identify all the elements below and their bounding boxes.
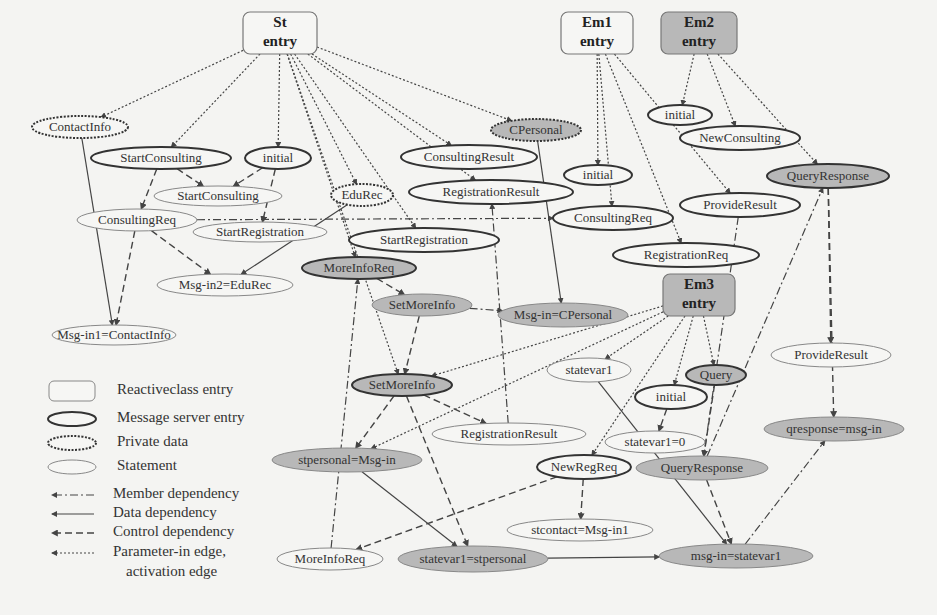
edge-control-startconsulting_ms-to-startconsulting_stmt [177, 169, 203, 187]
edge-param-st-to-contactinfo [101, 50, 243, 117]
entry-node-em2: Em2entry [661, 12, 737, 54]
node-label: RegistrationResult [461, 426, 558, 441]
node-startconsulting_stmt: StartConsulting [154, 186, 282, 206]
node-em1_initial: initial [564, 165, 632, 185]
node-statevar1_stpersonal: statevar1=stpersonal [398, 546, 548, 572]
legend-item-private: Private data [48, 433, 189, 450]
legend-label: Private data [117, 433, 189, 449]
edge-param-st-to-consultingresult [312, 54, 451, 145]
node-contactinfo: ContactInfo [32, 116, 128, 138]
edge-param-em1-to-em1_initial [597, 54, 598, 165]
node-label: ConsultingReq [574, 210, 653, 225]
node-label: CPersonal [509, 122, 563, 137]
legend-item-message-server: Message server entry [48, 409, 245, 426]
entry-subtitle: entry [682, 33, 717, 49]
node-newconsulting: NewConsulting [680, 126, 800, 150]
node-label: Query [700, 367, 733, 382]
edge-member-moreinforeq_stmt-to-moreinforeq_ms [331, 279, 358, 548]
legend-swatch-ellipse [48, 460, 96, 474]
node-label: ContactInfo [49, 119, 111, 134]
node-label: StartRegistration [380, 232, 469, 247]
node-label: ProvideResult [703, 197, 777, 212]
node-registrationresult_stmt: RegistrationResult [432, 423, 586, 445]
legend-swatch-ellipse [48, 436, 96, 450]
legend-swatch-ellipse [48, 412, 96, 426]
entry-title: Em1 [582, 14, 612, 30]
node-startconsulting_ms: StartConsulting [91, 147, 231, 169]
legend-label: Data dependency [113, 504, 217, 520]
node-label: QueryResponse [787, 168, 870, 183]
node-cpersonal: CPersonal [491, 119, 581, 141]
edge-param-em2-to-em2_initial [682, 54, 694, 105]
node-label: QueryResponse [661, 460, 744, 475]
node-label: initial [665, 107, 696, 122]
node-em2_initial: initial [648, 105, 712, 125]
edge-control-em3_initial-to-statevar1_0 [659, 409, 667, 431]
edge-param-st-to-startconsulting_ms [171, 54, 260, 147]
node-label: Msg-in2=EduRec [179, 277, 272, 292]
legend-item-reactiveclass: Reactiveclass entry [49, 381, 234, 401]
edge-param-st-to-cpersonal [317, 47, 512, 121]
entry-subtitle: entry [580, 33, 615, 49]
node-label: initial [656, 389, 687, 404]
node-label: ConsultingResult [424, 149, 515, 164]
edge-param-em3-to-query [703, 316, 713, 365]
edge-member-setmoreinfo_stmt-to-msgin_cpersonal [470, 308, 503, 310]
node-label: statevar1=0 [625, 434, 686, 449]
node-label: EduRec [341, 187, 382, 202]
node-statevar1: statevar1 [547, 358, 631, 382]
node-consultingreq_em1: ConsultingReq [553, 206, 673, 230]
legend-label: Message server entry [117, 409, 245, 425]
entry-node-em1: Em1entry [561, 12, 633, 54]
legend-item-param: Parameter-in edge,activation edge [52, 543, 226, 579]
node-msgin_cpersonal: Msg-in=CPersonal [498, 303, 628, 327]
node-setmoreinfo_stmt: SetMoreInfo [372, 294, 472, 316]
entry-subtitle: entry [682, 295, 717, 311]
edge-data-statevar1_stpersonal-to-msgin_statevar1 [548, 557, 659, 558]
entry-subtitle: entry [263, 33, 298, 49]
edge-control-setmoreinfo_ms-to-statevar1_stpersonal [406, 396, 467, 546]
node-queryresponse_ms: QueryResponse [767, 164, 889, 188]
node-label: RegistrationResult [443, 184, 540, 199]
legend-swatch-box [49, 381, 95, 401]
legend-label: Statement [117, 457, 178, 473]
node-label: initial [583, 167, 614, 182]
node-label: ProvideResult [794, 347, 868, 362]
entry-title: Em3 [684, 276, 714, 292]
node-provideresult_ms: ProvideResult [680, 193, 800, 217]
node-queryresponse_stmt: QueryResponse [636, 456, 768, 480]
edge-control-st_initial-to-startconsulting_stmt [233, 168, 262, 187]
edge-member-consultingreq_st-to-consultingreq_em1 [197, 218, 553, 219]
node-label: NewConsulting [699, 130, 781, 145]
dependency-graph: StentryEm1entryEm2entryEm3entryContactIn… [0, 0, 937, 615]
entry-title: Em2 [684, 14, 714, 30]
node-label: StartConsulting [120, 150, 202, 165]
edge-control-moreinforeq_ms-to-setmoreinfo_stmt [377, 278, 405, 294]
node-label: SetMoreInfo [389, 297, 455, 312]
node-label: MoreInfoReq [324, 260, 395, 275]
node-moreinforeq_stmt: MoreInfoReq [277, 548, 383, 570]
node-label: RegistrationReq [644, 247, 729, 262]
entry-node-st: Stentry [243, 12, 317, 54]
legend-item-statement: Statement [48, 457, 178, 474]
node-label: statevar1 [566, 362, 613, 377]
node-label: MoreInfoReq [295, 551, 366, 566]
node-qresponse: qresponse=msg-in [764, 417, 904, 441]
node-query: Query [686, 365, 746, 385]
node-moreinforeq_ms: MoreInfoReq [302, 257, 416, 279]
edge-control-startconsulting_ms-to-consultingreq_st [141, 169, 157, 209]
node-msgin_statevar1: msg-in=statevar1 [659, 544, 813, 568]
node-label: qresponse=msg-in [786, 421, 882, 436]
legend-item-data: Data dependency [52, 504, 217, 520]
entry-title: St [273, 14, 286, 30]
legend-label-continued: activation edge [126, 563, 218, 579]
node-label: SetMoreInfo [369, 377, 435, 392]
node-label: statevar1=stpersonal [420, 551, 527, 566]
node-msgin1: Msg-in1=ContactInfo [52, 325, 176, 345]
edge-control-consultingreq_st-to-msgin1 [116, 231, 135, 325]
edge-control-newregreq-to-stcontact [581, 479, 584, 519]
node-provideresult_stmt: ProvideResult [771, 343, 891, 367]
node-consultingresult: ConsultingResult [401, 145, 537, 169]
edge-member-queryresponse_stmt-to-queryresponse_ms [707, 188, 823, 456]
legend-item-control: Control dependency [52, 523, 235, 539]
